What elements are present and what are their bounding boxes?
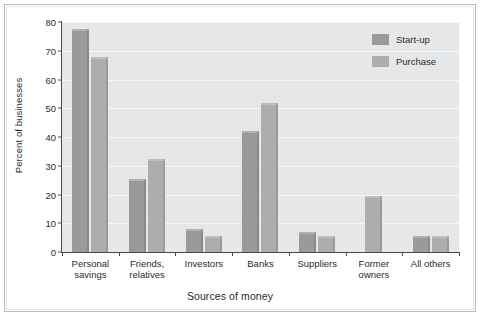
x-tick-label-line: Former <box>346 258 403 269</box>
x-axis-line <box>61 252 459 253</box>
bar-start-up <box>242 131 259 252</box>
x-axis-title: Sources of money <box>60 290 400 302</box>
x-tick-label-line: owners <box>346 269 403 280</box>
y-tick-label: 10 <box>45 218 56 229</box>
y-tick-label: 80 <box>45 17 56 28</box>
x-tick-mark <box>175 252 176 256</box>
x-tick-label: Investors <box>175 258 232 269</box>
x-tick-label-line: Suppliers <box>289 258 346 269</box>
y-tick-label: 50 <box>45 103 56 114</box>
bar-purchase <box>261 103 278 253</box>
bar-purchase <box>318 236 335 252</box>
x-tick-mark <box>402 252 403 256</box>
chart-figure: Percent of businesses 01020304050607080 … <box>0 0 484 320</box>
bar-purchase <box>432 236 449 252</box>
x-tick-label: Personalsavings <box>62 258 119 280</box>
x-tick-mark <box>346 252 347 256</box>
legend-swatch <box>372 34 389 45</box>
legend-item-start-up: Start-up <box>372 34 436 45</box>
bar-start-up <box>413 236 430 252</box>
legend-swatch <box>372 56 389 67</box>
bar-start-up <box>299 232 316 252</box>
bar-group <box>119 22 176 252</box>
bar-purchase <box>91 57 108 253</box>
y-axis-title: Percent of businesses <box>13 46 24 206</box>
y-tick-label: 40 <box>45 132 56 143</box>
y-tick-label: 60 <box>45 74 56 85</box>
y-tick-label: 20 <box>45 189 56 200</box>
x-tick-label-line: Friends, <box>119 258 176 269</box>
x-tick-label: Friends,relatives <box>119 258 176 280</box>
bar-start-up <box>129 179 146 252</box>
x-tick-mark <box>459 252 460 256</box>
bar-group <box>175 22 232 252</box>
x-tick-mark <box>232 252 233 256</box>
x-tick-label: Suppliers <box>289 258 346 269</box>
x-tick-label-line: Investors <box>175 258 232 269</box>
x-tick-label: Formerowners <box>346 258 403 280</box>
bar-purchase <box>205 236 222 252</box>
bar-purchase <box>365 196 382 252</box>
bar-group <box>232 22 289 252</box>
x-tick-label-line: All others <box>402 258 459 269</box>
x-tick-label-line: relatives <box>119 269 176 280</box>
bar-start-up <box>186 229 203 252</box>
x-tick-mark <box>62 252 63 256</box>
y-tick-label: 70 <box>45 45 56 56</box>
legend-label: Start-up <box>396 34 430 45</box>
x-tick-mark <box>289 252 290 256</box>
x-tick-label-line: savings <box>62 269 119 280</box>
legend-label: Purchase <box>396 56 436 67</box>
bar-purchase <box>148 159 165 252</box>
bar-group <box>289 22 346 252</box>
chart-legend: Start-upPurchase <box>372 34 436 78</box>
y-tick-label: 30 <box>45 160 56 171</box>
x-tick-mark <box>119 252 120 256</box>
x-tick-label: All others <box>402 258 459 269</box>
x-tick-label: Banks <box>232 258 289 269</box>
bar-group <box>62 22 119 252</box>
y-tick-label: 0 <box>51 247 56 258</box>
x-tick-label-line: Personal <box>62 258 119 269</box>
bar-start-up <box>72 29 89 252</box>
legend-item-purchase: Purchase <box>372 56 436 67</box>
x-tick-label-line: Banks <box>232 258 289 269</box>
